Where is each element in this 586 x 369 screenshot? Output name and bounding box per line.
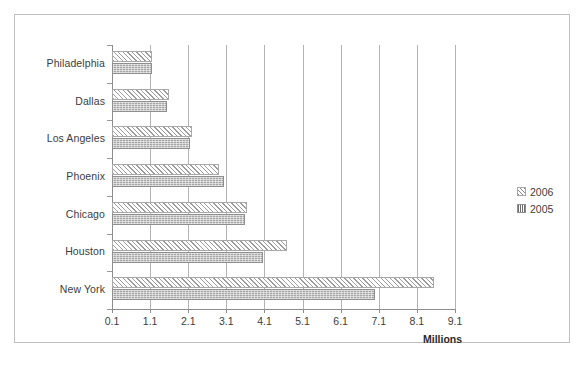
bar-philadelphia-2005[interactable]: [112, 63, 152, 74]
legend-swatch-2006-icon: [517, 187, 526, 196]
value-axis-tick-label: 5.1: [283, 315, 323, 327]
value-axis-tick: [341, 309, 342, 313]
category-label: Phoenix: [17, 170, 105, 182]
category-label: Los Angeles: [17, 132, 105, 144]
value-axis-tick: [112, 309, 113, 313]
bar-philadelphia-2006[interactable]: [112, 51, 152, 62]
category-label: Philadelphia: [17, 57, 105, 69]
value-axis-tick: [226, 309, 227, 313]
bar-chicago-2006[interactable]: [112, 202, 247, 213]
bar-group: [112, 196, 455, 234]
plot-area: [112, 45, 455, 309]
bar-new-york-2005[interactable]: [112, 289, 375, 300]
bar-group: [112, 158, 455, 196]
bar-dallas-2006[interactable]: [112, 89, 169, 100]
value-axis-tick-label: 0.1: [92, 315, 132, 327]
bar-houston-2006[interactable]: [112, 240, 287, 251]
value-axis-tick: [417, 309, 418, 313]
value-axis-tick-label: 9.1: [435, 315, 475, 327]
value-axis-tick-label: 6.1: [321, 315, 361, 327]
bar-group: [112, 45, 455, 83]
value-axis-title: Millions: [423, 333, 462, 345]
value-axis-line: [112, 309, 456, 310]
legend: 2006 2005: [517, 183, 571, 217]
value-axis-tick-label: 3.1: [206, 315, 246, 327]
legend-label-2006: 2006: [530, 186, 553, 198]
value-axis-tick: [379, 309, 380, 313]
bar-phoenix-2005[interactable]: [112, 176, 224, 187]
bar-dallas-2005[interactable]: [112, 101, 167, 112]
value-axis-tick: [303, 309, 304, 313]
value-axis-tick-label: 8.1: [397, 315, 437, 327]
category-axis-labels: PhiladelphiaDallasLos AngelesPhoenixChic…: [15, 45, 105, 309]
value-axis-tick-label: 4.1: [244, 315, 284, 327]
bar-group: [112, 271, 455, 309]
bar-phoenix-2006[interactable]: [112, 164, 219, 175]
category-label: Dallas: [17, 95, 105, 107]
category-label: Chicago: [17, 208, 105, 220]
bar-los-angeles-2006[interactable]: [112, 126, 192, 137]
bar-group: [112, 83, 455, 121]
bar-chicago-2005[interactable]: [112, 214, 245, 225]
chart-frame: PhiladelphiaDallasLos AngelesPhoenixChic…: [14, 14, 570, 343]
value-axis-tick: [455, 309, 456, 313]
value-axis-tick-label: 1.1: [130, 315, 170, 327]
legend-item-2006[interactable]: 2006: [517, 183, 571, 200]
category-label: New York: [17, 283, 105, 295]
bar-group: [112, 234, 455, 272]
bar-los-angeles-2005[interactable]: [112, 138, 190, 149]
category-label: Houston: [17, 245, 105, 257]
bar-group: [112, 120, 455, 158]
legend-item-2005[interactable]: 2005: [517, 200, 571, 217]
bar-new-york-2006[interactable]: [112, 277, 434, 288]
gridline: [455, 45, 456, 309]
value-axis-tick: [264, 309, 265, 313]
value-axis-tick-label: 7.1: [359, 315, 399, 327]
legend-swatch-2005-icon: [517, 204, 526, 213]
bar-houston-2005[interactable]: [112, 252, 263, 263]
legend-label-2005: 2005: [530, 203, 553, 215]
value-axis-tick: [188, 309, 189, 313]
value-axis-tick-label: 2.1: [168, 315, 208, 327]
value-axis-tick: [150, 309, 151, 313]
